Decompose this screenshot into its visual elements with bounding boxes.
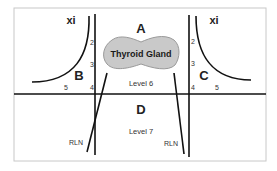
thyroid-gland-label: Thyroid Gland (110, 49, 171, 59)
left-rln-label: RLN (69, 139, 83, 146)
right-number-4: 4 (191, 84, 195, 91)
level-7-label: Level 7 (129, 127, 153, 136)
neck-zones-diagram: A Thyroid Gland Level 6 D Level 7 B C xi… (0, 0, 277, 171)
left-number-2: 2 (90, 39, 94, 46)
region-b-label: B (74, 68, 83, 83)
left-xi-label: xi (66, 14, 75, 26)
right-number-2: 2 (191, 38, 195, 45)
left-number-3: 3 (90, 61, 94, 68)
region-d-label: D (136, 102, 145, 117)
left-number-4: 4 (90, 84, 94, 91)
right-rln-label: RLN (164, 140, 178, 147)
right-number-5: 5 (215, 84, 219, 91)
left-number-5: 5 (64, 84, 68, 91)
region-c-label: C (199, 68, 209, 83)
level-6-label: Level 6 (129, 79, 153, 88)
right-xi-label: xi (209, 14, 218, 26)
region-a-label: A (136, 21, 146, 36)
right-number-3: 3 (191, 60, 195, 67)
